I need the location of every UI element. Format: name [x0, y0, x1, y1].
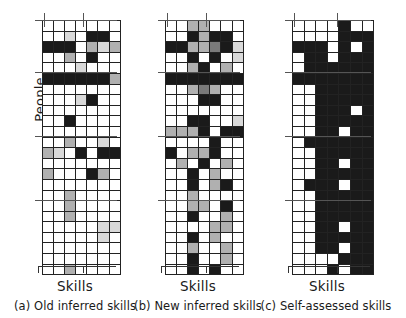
heatmap-cell — [110, 243, 120, 253]
heatmap-cell — [328, 254, 339, 264]
heatmap-cell — [110, 53, 120, 63]
heatmap-cell — [43, 53, 53, 63]
heatmap-cell — [233, 32, 243, 42]
heatmap-cell — [177, 32, 187, 42]
heatmap-cell — [293, 191, 304, 201]
heatmap-cell — [188, 116, 198, 126]
heatmap-cell — [65, 201, 75, 211]
heatmap-cell — [76, 85, 86, 95]
heatmap-cell — [351, 42, 362, 52]
heatmap-cell — [293, 42, 304, 52]
heatmap-cell — [166, 191, 176, 201]
heatmap-cell — [293, 212, 304, 222]
heatmap-cell — [233, 243, 243, 253]
heatmap-cell — [221, 138, 231, 148]
heatmap-cell — [43, 42, 53, 52]
heatmap-cell — [98, 243, 108, 253]
heatmap-cell — [166, 42, 176, 52]
heatmap-cell — [221, 21, 231, 31]
heatmap-cell — [210, 53, 220, 63]
heatmap-cell — [177, 222, 187, 232]
heatmap-cell — [98, 254, 108, 264]
heatmap-cell — [65, 254, 75, 264]
heatmap-cell — [339, 42, 350, 52]
heatmap-cell — [305, 169, 316, 179]
heatmap-cell — [110, 21, 120, 31]
x-axis-label-b: Skills — [143, 278, 253, 294]
heatmap-cell — [351, 222, 362, 232]
heatmap-cell — [199, 21, 209, 31]
heatmap-cell — [305, 42, 316, 52]
heatmap-cell — [43, 159, 53, 169]
heatmap-cell — [233, 212, 243, 222]
heatmap-cell — [54, 243, 64, 253]
heatmap-cell — [328, 180, 339, 190]
heatmap-cell — [339, 138, 350, 148]
heatmap-cell — [188, 32, 198, 42]
heatmap-cell — [43, 148, 53, 158]
heatmap-cell — [199, 180, 209, 190]
heatmap-cell — [65, 32, 75, 42]
heatmap-cell — [188, 106, 198, 116]
heatmap-cell — [305, 180, 316, 190]
heatmap-cell — [177, 116, 187, 126]
heatmap-cell — [76, 106, 86, 116]
heatmap-cell — [328, 53, 339, 63]
x-axis-line-b — [161, 266, 239, 267]
heatmap-cell — [316, 148, 327, 158]
heatmap-cell — [43, 191, 53, 201]
heatmap-cell — [199, 201, 209, 211]
heatmap-cell — [199, 169, 209, 179]
x-axis-tick-mid — [83, 266, 84, 273]
heatmap-cell — [221, 159, 231, 169]
x-axis-tick-start — [161, 266, 162, 273]
heatmap-cell — [199, 106, 209, 116]
heatmap-cell — [98, 32, 108, 42]
heatmap-cell — [210, 21, 220, 31]
heatmap-cell — [199, 53, 209, 63]
heatmap-cell — [199, 191, 209, 201]
heatmap-cell — [110, 180, 120, 190]
heatmap-cell — [233, 106, 243, 116]
heatmap-cell — [316, 42, 327, 52]
heatmap-cell — [65, 53, 75, 63]
heatmap-cell — [87, 212, 97, 222]
heatmap-cell — [233, 201, 243, 211]
axis-tick-left-0 — [285, 20, 371, 21]
heatmap-cell — [305, 21, 316, 31]
heatmap-cell — [363, 53, 374, 63]
heatmap-cell — [233, 233, 243, 243]
heatmap-cell — [199, 85, 209, 95]
heatmap-cell — [305, 233, 316, 243]
heatmap-cell — [177, 148, 187, 158]
heatmap-cell — [210, 233, 220, 243]
heatmap-cell — [166, 169, 176, 179]
heatmap-cell — [54, 180, 64, 190]
x-axis-tick-start — [38, 266, 39, 273]
heatmap-cell — [87, 95, 97, 105]
heatmap-cell — [339, 180, 350, 190]
heatmap-cell — [328, 116, 339, 126]
heatmap-cell — [98, 180, 108, 190]
heatmap-cell — [210, 42, 220, 52]
heatmap-cell — [339, 243, 350, 253]
heatmap-cell — [76, 42, 86, 52]
heatmap-cell — [210, 148, 220, 158]
heatmap-cell — [221, 254, 231, 264]
heatmap-cell — [43, 233, 53, 243]
heatmap-cell — [210, 106, 220, 116]
heatmap-cell — [188, 148, 198, 158]
heatmap-cell — [233, 116, 243, 126]
heatmap-cell — [316, 21, 327, 31]
heatmap-cell — [328, 169, 339, 179]
heatmap-cell — [351, 116, 362, 126]
heatmap-cell — [177, 159, 187, 169]
axis-tick-top-1 — [337, 13, 338, 27]
heatmap-cell — [98, 159, 108, 169]
heatmap-cell — [293, 116, 304, 126]
heatmap-cell — [98, 138, 108, 148]
heatmap-cell — [221, 180, 231, 190]
heatmap-c — [292, 20, 374, 275]
heatmap-cell — [221, 201, 231, 211]
heatmap-cell — [87, 201, 97, 211]
